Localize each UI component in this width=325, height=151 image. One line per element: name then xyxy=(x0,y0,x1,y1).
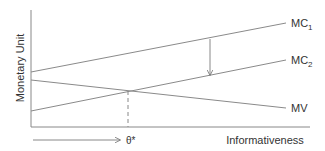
mc1-curve xyxy=(31,23,286,72)
mv-label: MV xyxy=(291,102,308,114)
y-axis-label: Monetary Unit xyxy=(14,34,26,102)
mc1-label: MC1 xyxy=(291,17,313,32)
diagram-canvas: Monetary Unit Informativeness θ* MC1 MC2… xyxy=(0,0,325,151)
optimum-label: θ* xyxy=(126,135,136,146)
x-axis-label: Informativeness xyxy=(226,134,304,146)
mc2-label: MC2 xyxy=(291,54,313,69)
